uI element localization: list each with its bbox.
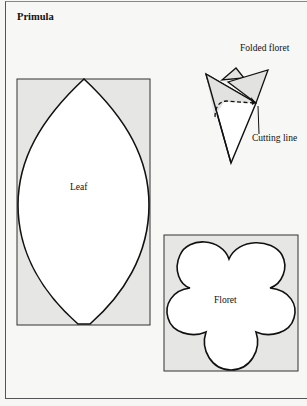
leaf-label: Leaf [70, 182, 87, 192]
folded-floret-diagram [206, 68, 268, 163]
leaf-template [17, 79, 150, 325]
cutting-line-pointer [258, 106, 259, 134]
floret-label: Floret [214, 295, 237, 305]
folded-floret-label: Folded floret [240, 43, 289, 53]
cutting-line-label: Cutting line [252, 133, 297, 143]
